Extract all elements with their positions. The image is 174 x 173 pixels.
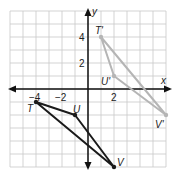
y-tick-label-2: 2 — [79, 58, 85, 69]
y-axis-label: y — [91, 6, 98, 17]
x-axis-label: x — [160, 75, 167, 86]
x-tick-label-2: 2 — [111, 92, 117, 103]
x-tick-label-neg4: −4 — [29, 92, 41, 103]
y-tick-label-4: 4 — [79, 32, 85, 43]
x-tick-label-neg2: −2 — [55, 92, 67, 103]
vertex-point-icon — [112, 74, 116, 78]
vertex-label-V-prime: V' — [155, 119, 165, 130]
vertex-label-U: U — [73, 104, 81, 115]
vertex-label-U-prime: U' — [101, 76, 111, 87]
vertex-label-T-prime: T' — [95, 25, 104, 36]
y-axis-down-arrow-icon — [85, 162, 92, 170]
x-axis-right-arrow-icon — [164, 86, 172, 93]
vertex-label-V: V — [117, 157, 125, 168]
vertex-point-icon — [112, 165, 116, 169]
y-axis-up-arrow-icon — [85, 8, 92, 16]
x-axis-left-arrow-icon — [8, 86, 16, 93]
vertex-label-T: T — [27, 103, 34, 114]
vertex-point-icon — [164, 113, 168, 117]
coordinate-plane: x y −4 −2 2 4 2 T U V T' U' V' — [0, 0, 174, 173]
